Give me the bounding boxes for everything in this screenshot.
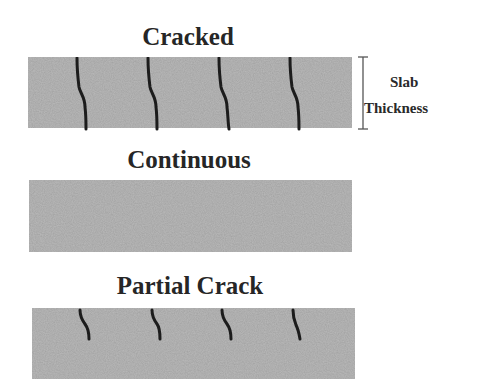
thickness-label-line2: Thickness <box>364 101 428 116</box>
continuous-slab <box>29 180 353 253</box>
partial-crack-title: Partial Crack <box>100 273 280 298</box>
thickness-label-line1: Slab <box>390 75 418 90</box>
partial-crack-slab <box>32 308 356 380</box>
continuous-title: Continuous <box>112 147 266 172</box>
cracked-title: Cracked <box>130 24 246 49</box>
cracked-slab <box>28 57 358 131</box>
thickness-bracket <box>357 56 369 132</box>
